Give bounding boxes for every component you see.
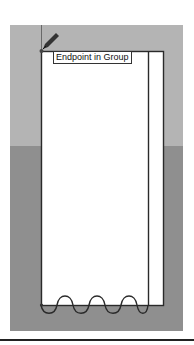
- face-rectangle: [42, 52, 164, 306]
- pencil-icon: [43, 33, 59, 49]
- bottom-separator: [0, 339, 194, 341]
- endpoint-tooltip: Endpoint in Group: [53, 51, 132, 64]
- endpoint-marker: [40, 49, 44, 53]
- wave-start-marker: [40, 303, 43, 306]
